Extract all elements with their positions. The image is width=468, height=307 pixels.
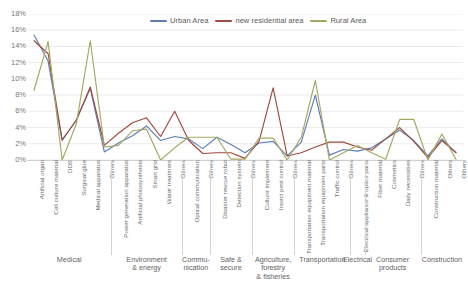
group-label: Construction	[421, 256, 463, 264]
group-separator	[252, 160, 253, 255]
group-separator	[421, 160, 422, 255]
chart-legend: Urban Areanew residential areaRural Area	[150, 16, 366, 25]
y-axis-tick-label: 6%	[15, 107, 26, 115]
plot-area	[27, 14, 463, 160]
legend-label: new residential area	[235, 16, 303, 25]
y-axis-tick-label: 18%	[11, 10, 26, 18]
group-separator	[365, 160, 366, 255]
y-axis-tick-label: 4%	[15, 124, 26, 132]
y-axis-tick-label: 12%	[11, 59, 26, 67]
y-axis-tick-label: 2%	[15, 140, 26, 148]
legend-swatch	[310, 20, 327, 22]
y-axis: 0%2%4%6%8%10%12%14%16%18%	[0, 0, 26, 160]
group-separator	[182, 160, 183, 255]
legend-label: Rural Area	[330, 16, 366, 25]
group-separator	[210, 160, 211, 255]
legend-item[interactable]: Urban Area	[150, 16, 208, 25]
legend-item[interactable]: Rural Area	[310, 16, 366, 25]
group-label: Safe &secure	[210, 256, 252, 273]
data-lines	[27, 14, 463, 160]
group-label: Environment& energy	[111, 256, 181, 273]
group-separator	[111, 160, 112, 255]
x-axis-group-labels: MedicalEnvironment& energyCommu-nication…	[27, 160, 463, 307]
legend-label: Urban Area	[170, 16, 208, 25]
y-axis-tick-label: 10%	[11, 75, 26, 83]
y-axis-tick-label: 8%	[15, 91, 26, 99]
legend-swatch	[150, 20, 167, 22]
group-label: Agriculture,forestry& fisheries	[252, 256, 294, 281]
group-separator	[294, 160, 295, 255]
legend-swatch	[215, 20, 232, 22]
y-axis-tick-label: 0%	[15, 156, 26, 164]
y-axis-tick-label: 14%	[11, 42, 26, 50]
y-axis-tick-label: 16%	[11, 26, 26, 34]
group-label: Consumerproducts	[365, 256, 421, 273]
group-label: Medical	[27, 256, 111, 264]
group-separator	[350, 160, 351, 255]
group-label: Commu-nication	[181, 256, 211, 273]
legend-item[interactable]: new residential area	[215, 16, 303, 25]
